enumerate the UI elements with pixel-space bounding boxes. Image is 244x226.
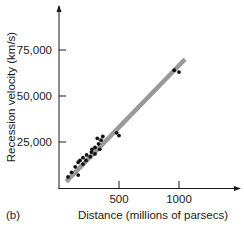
data-point [76,173,80,177]
x-tick-label: 1000 [166,193,192,205]
data-point [70,170,74,174]
panel-label: (b) [6,209,20,221]
data-point [81,162,85,166]
data-point [73,165,77,169]
data-point [99,138,103,142]
hubble-scatter-chart: 25,00050,00075,000 5001000 Recession vel… [0,0,244,226]
y-axis-label: Recession velocity (km/s) [5,32,17,163]
data-point [172,68,176,72]
data-point [98,147,102,151]
data-point [66,175,70,179]
y-tick-label: 50,000 [17,90,52,102]
data-point [101,135,105,139]
data-point [177,70,181,74]
data-point [78,159,82,163]
data-point [85,153,89,157]
data-point [97,142,101,146]
data-point [96,136,100,140]
data-point [81,156,85,160]
y-tick-label: 75,000 [17,44,52,56]
x-axis-label: Distance (millions of parsecs) [78,209,228,221]
data-point [93,152,97,156]
y-tick-label: 25,000 [17,136,52,148]
data-point [117,134,121,138]
data-point [93,146,97,150]
x-axis-ticks: 5001000 [109,181,191,205]
data-point [88,155,92,159]
x-tick-label: 500 [109,193,128,205]
data-point [84,159,88,163]
